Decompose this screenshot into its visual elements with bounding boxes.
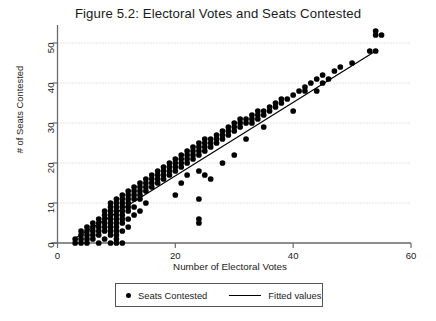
y-axis-title: # of Seats Contested <box>14 50 25 170</box>
data-point <box>184 172 190 178</box>
legend-label-seats-contested: Seats Contested <box>138 290 207 301</box>
x-axis-title: Number of Electoral Votes <box>48 261 412 272</box>
data-point <box>379 32 385 38</box>
data-point <box>231 120 237 126</box>
data-point <box>290 108 296 114</box>
data-point <box>137 208 143 214</box>
data-point <box>373 48 379 54</box>
data-point <box>261 124 267 130</box>
data-point <box>149 172 155 178</box>
data-point <box>214 132 220 138</box>
data-point <box>249 112 255 118</box>
data-point <box>273 100 279 106</box>
data-point <box>320 80 326 86</box>
x-tick-label: 60 <box>396 250 426 261</box>
data-point <box>102 208 108 214</box>
x-tick-label: 0 <box>43 250 73 261</box>
figure-container: Figure 5.2: Electoral Votes and Seats Co… <box>0 0 436 321</box>
data-point <box>255 108 261 114</box>
data-point <box>155 168 161 174</box>
x-tick-label: 40 <box>278 250 308 261</box>
data-point <box>172 156 178 162</box>
data-point <box>114 196 120 202</box>
data-point <box>131 212 137 218</box>
data-point <box>119 240 125 246</box>
data-point <box>296 88 302 94</box>
y-tick-label: 50 <box>44 43 55 65</box>
data-point <box>119 192 125 198</box>
legend-label-fitted-values: Fitted values <box>268 290 321 301</box>
data-point <box>72 236 78 242</box>
data-point <box>119 228 125 234</box>
data-point <box>220 160 226 166</box>
legend-entry-seats-contested: Seats Contested <box>126 290 207 301</box>
data-point <box>243 136 249 142</box>
data-point <box>261 108 267 114</box>
y-tick-label: 30 <box>44 123 55 145</box>
data-point <box>125 216 131 222</box>
data-point <box>90 220 96 226</box>
chart-legend: Seats Contested Fitted values <box>115 283 323 307</box>
data-point <box>131 184 137 190</box>
data-point <box>96 240 102 246</box>
data-point <box>237 116 243 122</box>
data-point <box>220 128 226 134</box>
data-point <box>178 180 184 186</box>
data-point <box>243 116 249 122</box>
data-point <box>102 236 108 242</box>
data-point <box>108 200 114 206</box>
y-tick-label: 10 <box>44 203 55 225</box>
data-point <box>308 80 314 86</box>
data-point <box>78 228 84 234</box>
data-point <box>178 152 184 158</box>
data-point <box>190 144 196 150</box>
data-point <box>196 216 202 222</box>
data-point <box>349 60 355 66</box>
data-point <box>202 172 208 178</box>
data-point <box>267 104 273 110</box>
data-point <box>184 148 190 154</box>
legend-marker-line-icon <box>229 295 261 296</box>
data-point <box>284 96 290 102</box>
data-point <box>84 224 90 230</box>
data-point <box>196 140 202 146</box>
data-point <box>125 224 131 230</box>
data-point <box>367 48 373 54</box>
data-point <box>96 216 102 222</box>
data-point <box>332 68 338 74</box>
y-tick-label: 40 <box>44 83 55 105</box>
plot-area <box>0 0 436 321</box>
data-point <box>125 188 131 194</box>
data-point <box>326 76 332 82</box>
data-point <box>137 180 143 186</box>
data-point <box>131 204 137 210</box>
data-point <box>172 192 178 198</box>
data-point <box>226 124 232 130</box>
data-point <box>208 176 214 182</box>
x-tick-label: 20 <box>160 250 190 261</box>
data-point <box>314 76 320 82</box>
scatter-points <box>72 28 384 246</box>
data-point <box>290 92 296 98</box>
y-tick-label: 20 <box>44 163 55 185</box>
data-point <box>143 200 149 206</box>
data-point <box>208 136 214 142</box>
data-point <box>196 168 202 174</box>
data-point <box>320 72 326 78</box>
data-point <box>202 136 208 142</box>
data-point <box>302 84 308 90</box>
data-point <box>337 64 343 70</box>
data-point <box>373 28 379 34</box>
legend-marker-dot-icon <box>126 293 131 298</box>
data-point <box>196 196 202 202</box>
data-point <box>108 240 114 246</box>
data-point <box>161 164 167 170</box>
data-point <box>231 152 237 158</box>
data-point <box>279 96 285 102</box>
data-point <box>143 176 149 182</box>
data-point <box>314 88 320 94</box>
data-point <box>167 160 173 166</box>
legend-entry-fitted-values: Fitted values <box>229 290 321 301</box>
